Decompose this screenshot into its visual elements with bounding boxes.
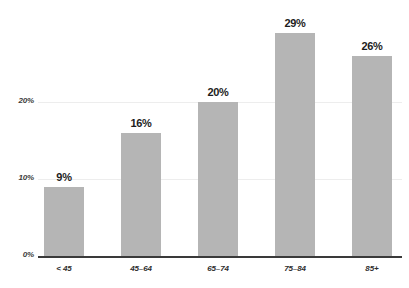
bar-lt-45[interactable] bbox=[44, 187, 84, 256]
value-label-75-84: 29% bbox=[265, 17, 325, 29]
bar-65-74[interactable] bbox=[198, 102, 238, 256]
value-label-85-plus: 26% bbox=[342, 40, 402, 52]
bar-75-84[interactable] bbox=[275, 33, 315, 256]
category-label-lt-45: < 45 bbox=[29, 264, 99, 274]
bar-45-64[interactable] bbox=[121, 133, 161, 256]
value-label-45-64: 16% bbox=[111, 117, 171, 129]
y-tick-label-10: 10% bbox=[0, 173, 34, 182]
category-label-45-64: 45–64 bbox=[106, 264, 176, 274]
category-label-75-84: 75–84 bbox=[260, 264, 330, 274]
y-tick-label-20: 20% bbox=[0, 96, 34, 105]
value-label-lt-45: 9% bbox=[34, 171, 94, 183]
category-label-65-74: 65–74 bbox=[183, 264, 253, 274]
x-axis-line bbox=[38, 256, 402, 258]
bars-layer bbox=[38, 0, 402, 256]
bar-85-plus[interactable] bbox=[352, 56, 392, 256]
y-axis-labels: 20% 10% 0% bbox=[0, 0, 34, 260]
y-tick-label-0: 0% bbox=[0, 250, 34, 259]
value-label-65-74: 20% bbox=[188, 86, 248, 98]
bar-chart: 20% 10% 0% 9% 16% 20% 29% 26% < 45 45–64… bbox=[0, 0, 409, 288]
category-label-85-plus: 85+ bbox=[337, 264, 407, 274]
